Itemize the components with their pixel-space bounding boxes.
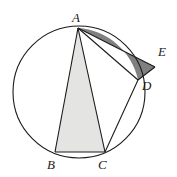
- segment-cd: [105, 80, 138, 152]
- vertex-label-a: A: [72, 11, 80, 24]
- vertex-label-b: B: [47, 158, 55, 171]
- region-ade-fill: [78, 28, 155, 80]
- vertex-label-c: C: [98, 158, 107, 171]
- vertex-label-e: E: [158, 45, 166, 58]
- vertex-label-d: D: [142, 79, 151, 92]
- geometry-figure: A B C D E: [0, 0, 177, 177]
- triangle-abc-fill: [55, 28, 105, 152]
